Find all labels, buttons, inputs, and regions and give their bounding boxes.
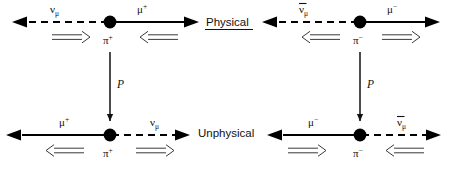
- bl-neutrino-arrowhead: [175, 130, 190, 141]
- svg-text:νμ: νμ: [299, 3, 308, 18]
- unphysical-label: Unphysical: [198, 127, 254, 139]
- bl-neutrino-line: [112, 130, 190, 141]
- parity-decay-diagram: νμ μ+ π+: [0, 0, 449, 171]
- tl-left-spin-arrow: [52, 31, 90, 43]
- tl-pion-label: π+: [103, 33, 113, 46]
- parity-label-left: P: [116, 78, 124, 90]
- parity-arrow-right: P: [360, 52, 374, 121]
- bl-muon-line: [6, 130, 110, 141]
- tr-antineutrino-arrowhead: [262, 17, 277, 28]
- tr-antineutrino-line: [262, 17, 358, 28]
- bl-vertex-dot: [104, 129, 117, 142]
- tl-vertex-dot: [104, 16, 117, 29]
- tr-left-spin-arrow: [302, 31, 340, 43]
- tl-right-spin-arrow: [140, 31, 178, 43]
- br-antineutrino-line: [362, 130, 441, 141]
- parity-label-right: P: [366, 78, 374, 90]
- br-antineutrino-arrowhead: [426, 130, 441, 141]
- tr-antineutrino-label: νμ: [299, 3, 308, 18]
- physical-label: Physical: [206, 16, 249, 28]
- bl-right-spin-arrow: [136, 145, 174, 157]
- parity-arrow-left: P: [110, 52, 124, 121]
- tr-muon-arrowhead: [425, 17, 440, 28]
- panel-top-right: νμ μ− π−: [262, 2, 440, 46]
- bl-muon-arrowhead: [6, 130, 21, 141]
- physical-label-group: Physical: [205, 16, 253, 30]
- tl-muon-arrowhead: [184, 17, 199, 28]
- tr-muon-label: μ−: [387, 2, 397, 15]
- bl-neutrino-label: νμ: [150, 116, 159, 131]
- tl-neutrino-arrowhead: [12, 17, 27, 28]
- tr-vertex-dot: [354, 16, 367, 29]
- br-vertex-dot: [354, 129, 367, 142]
- panel-bottom-left: μ+ νμ π+: [6, 115, 190, 159]
- panel-bottom-right: μ− νμ π−: [267, 115, 441, 159]
- br-pion-label: π−: [353, 146, 363, 159]
- bl-pion-label: π+: [103, 146, 113, 159]
- tr-right-spin-arrow: [382, 31, 420, 43]
- br-muon-label: μ−: [308, 115, 318, 128]
- br-antineutrino-label: νμ: [397, 116, 406, 131]
- br-muon-line: [267, 130, 360, 141]
- tl-muon-line: [108, 17, 199, 28]
- br-muon-arrowhead: [267, 130, 282, 141]
- tl-neutrino-label: νμ: [50, 3, 59, 18]
- tr-muon-line: [358, 17, 440, 28]
- svg-text:νμ: νμ: [397, 116, 406, 131]
- unphysical-label-group: Unphysical: [198, 127, 254, 139]
- tr-pion-label: π−: [353, 33, 363, 46]
- br-right-spin-arrow: [386, 145, 424, 157]
- bl-left-spin-arrow: [46, 145, 84, 157]
- bl-muon-label: μ+: [59, 115, 69, 128]
- tl-neutrino-line: [12, 17, 108, 28]
- br-left-spin-arrow: [288, 145, 326, 157]
- panel-top-left: νμ μ+ π+: [12, 2, 199, 46]
- tl-muon-label: μ+: [137, 2, 147, 15]
